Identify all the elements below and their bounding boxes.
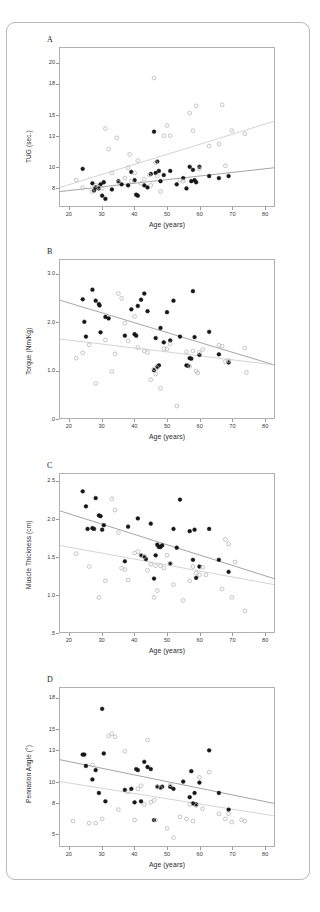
data-point	[126, 339, 130, 343]
data-point	[82, 753, 86, 757]
data-point	[113, 352, 117, 356]
data-point	[104, 579, 108, 583]
data-point	[191, 558, 195, 562]
x-tick-mark	[167, 633, 168, 636]
regression-line-open-fit	[60, 782, 274, 816]
x-tick-mark	[134, 207, 135, 210]
data-point	[86, 527, 90, 531]
regression-line-filled-fit	[60, 168, 274, 192]
data-point	[230, 596, 234, 600]
data-point	[110, 370, 114, 374]
data-point	[100, 817, 104, 821]
plot-frame	[59, 47, 275, 207]
data-point	[154, 553, 158, 557]
x-tick-label: 80	[258, 423, 272, 429]
x-tick-mark	[232, 847, 233, 850]
data-point	[94, 299, 98, 303]
plot-area: 3.02.01.0.020304050607080Torque (Nm/Kg)	[59, 259, 275, 419]
data-point	[74, 178, 78, 182]
data-point	[123, 321, 127, 325]
data-point	[243, 132, 247, 136]
data-point	[230, 129, 234, 133]
y-tick-mark	[56, 729, 59, 730]
x-tick-mark	[265, 419, 266, 422]
data-point	[245, 371, 249, 375]
data-point	[168, 169, 172, 173]
y-tick-mark	[56, 481, 59, 482]
data-point	[136, 159, 140, 163]
figure-page: A2018151310820304050607080TUG (sec.)Age …	[6, 22, 310, 880]
data-point	[123, 568, 127, 572]
data-point	[136, 346, 140, 350]
data-point	[223, 538, 227, 542]
x-tick-mark	[232, 419, 233, 422]
y-tick-label: 2.5	[33, 477, 55, 483]
data-point	[207, 748, 211, 752]
data-point	[193, 528, 197, 532]
y-tick-mark	[56, 115, 59, 116]
data-point	[191, 349, 195, 353]
x-tick-label: 20	[62, 851, 76, 857]
data-point	[165, 553, 169, 557]
data-point	[81, 167, 85, 171]
y-tick-mark	[56, 633, 59, 634]
data-point	[207, 330, 211, 334]
data-point	[136, 768, 140, 772]
data-point	[152, 76, 156, 80]
x-tick-label: 70	[225, 423, 239, 429]
data-point	[227, 808, 231, 812]
y-tick-mark	[56, 782, 59, 783]
x-tick-mark	[232, 207, 233, 210]
data-point	[223, 817, 227, 821]
y-axis-label: TUG (sec.)	[25, 130, 32, 163]
y-tick-label: 3.0	[33, 270, 55, 276]
data-point	[71, 819, 75, 823]
data-point	[113, 508, 117, 512]
x-tick-mark	[200, 207, 201, 210]
y-tick-label: 1.0	[33, 367, 55, 373]
y-tick-label: .0	[33, 416, 55, 422]
series-filled	[81, 489, 231, 580]
data-point	[207, 174, 211, 178]
data-point	[188, 111, 192, 115]
data-point	[87, 343, 91, 347]
data-point	[99, 514, 103, 518]
data-point	[139, 181, 143, 185]
x-tick-mark	[69, 847, 70, 850]
series-open	[74, 76, 246, 193]
data-point	[220, 587, 224, 591]
y-tick-label: 18	[33, 694, 55, 700]
data-point	[116, 292, 120, 296]
data-point	[168, 134, 172, 138]
data-point	[133, 818, 137, 822]
x-tick-mark	[69, 419, 70, 422]
data-point	[104, 127, 108, 131]
data-point	[100, 194, 104, 198]
x-tick-mark	[265, 847, 266, 850]
data-point	[178, 498, 182, 502]
plot-area: 2018151310820304050607080TUG (sec.)	[59, 47, 275, 207]
x-tick-label: 50	[160, 637, 174, 643]
data-point	[146, 568, 150, 572]
x-tick-mark	[200, 847, 201, 850]
scatter-panel-c: C2.52.01.51.0.520304050607080Muscle Thic…	[7, 459, 311, 673]
data-point	[129, 307, 133, 311]
data-point	[207, 770, 211, 774]
data-point	[207, 144, 211, 148]
data-point	[175, 404, 179, 408]
y-tick-mark	[56, 750, 59, 751]
data-point	[133, 171, 137, 175]
data-point	[159, 190, 163, 194]
data-point	[92, 527, 96, 531]
data-point	[100, 528, 104, 532]
data-point	[104, 799, 108, 803]
data-point	[191, 565, 195, 569]
data-point	[81, 489, 85, 493]
y-tick-label: 18	[33, 80, 55, 86]
data-point	[133, 800, 137, 804]
data-point	[82, 320, 86, 324]
data-point	[116, 531, 120, 535]
scatter-canvas	[60, 474, 274, 632]
y-tick-label: 2.0	[33, 319, 55, 325]
x-tick-mark	[102, 633, 103, 636]
